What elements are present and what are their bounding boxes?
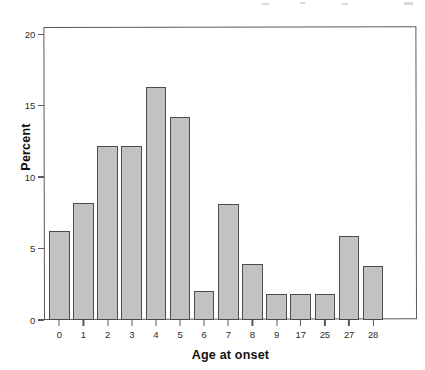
x-axis-tick-mark	[276, 320, 277, 326]
x-axis-tick-label: 9	[274, 329, 279, 340]
x-axis-tick-label: 5	[177, 329, 182, 340]
x-axis-tick: 0	[57, 320, 62, 340]
x-axis-tick-label: 25	[320, 329, 330, 340]
x-axis-tick-mark	[131, 320, 132, 326]
x-axis-ticks: 012345678917252728	[44, 320, 417, 350]
scan-artifact	[404, 2, 413, 5]
x-axis-tick-mark	[300, 320, 301, 326]
bar	[73, 203, 94, 320]
y-axis-tick-label: 0	[30, 315, 35, 326]
bar	[194, 291, 215, 320]
x-axis-tick-mark	[348, 320, 349, 326]
x-axis-tick-label: 28	[368, 329, 378, 340]
x-axis-tick-mark	[324, 320, 325, 326]
x-axis-title: Age at onset	[44, 348, 417, 362]
x-axis-tick: 3	[129, 320, 134, 340]
x-axis-tick-mark	[179, 320, 180, 326]
bar	[315, 294, 336, 320]
x-axis-tick-label: 0	[57, 329, 62, 340]
x-axis-tick-mark	[83, 320, 84, 326]
x-axis-tick-label: 17	[296, 329, 306, 340]
y-axis-tick-label: 15	[25, 100, 35, 111]
x-axis-tick-mark	[107, 320, 108, 326]
scan-artifact	[300, 2, 305, 4]
x-axis-tick-mark	[373, 320, 374, 326]
y-axis-tick-label: 10	[25, 172, 35, 183]
x-axis-tick-mark	[252, 320, 253, 326]
x-axis-tick-mark	[59, 320, 60, 326]
y-axis-title: Percent	[19, 123, 33, 170]
y-axis-tick-mark	[38, 34, 44, 35]
y-axis-ticks: 05101520	[0, 0, 44, 370]
x-axis-tick: 9	[274, 320, 279, 340]
x-axis-tick: 27	[344, 320, 354, 340]
x-axis-tick: 28	[368, 320, 378, 340]
bar	[363, 266, 384, 320]
y-axis-tick-mark	[38, 248, 44, 249]
x-axis-tick-mark	[228, 320, 229, 326]
x-axis-tick-label: 7	[226, 329, 231, 340]
scan-artifact	[342, 3, 348, 5]
x-axis-tick-label: 6	[202, 329, 207, 340]
bar-chart: 05101520 Percent 012345678917252728 Age …	[0, 0, 425, 370]
y-axis-tick-mark	[38, 105, 44, 106]
y-axis-tick-mark	[38, 176, 44, 177]
bar	[242, 264, 263, 320]
bar	[97, 146, 118, 320]
bar	[266, 294, 287, 320]
x-axis-tick-label: 3	[129, 329, 134, 340]
y-axis-tick-label: 20	[25, 29, 35, 40]
bar	[290, 294, 311, 320]
x-axis-tick-label: 2	[105, 329, 110, 340]
x-axis-tick-mark	[204, 320, 205, 326]
x-axis-tick: 6	[202, 320, 207, 340]
x-axis-tick: 25	[320, 320, 330, 340]
y-axis-tick-label: 5	[30, 243, 35, 254]
x-axis-tick: 5	[177, 320, 182, 340]
x-axis-tick: 1	[81, 320, 86, 340]
bar	[49, 231, 70, 320]
scan-artifact	[262, 3, 269, 5]
x-axis-tick-mark	[155, 320, 156, 326]
x-axis-tick: 17	[296, 320, 306, 340]
x-axis-tick-label: 27	[344, 329, 354, 340]
x-axis-tick-label: 8	[250, 329, 255, 340]
x-axis-tick: 8	[250, 320, 255, 340]
x-axis-tick-label: 4	[153, 329, 158, 340]
x-axis-tick: 7	[226, 320, 231, 340]
bar	[339, 236, 360, 320]
bars-layer	[44, 27, 417, 320]
x-axis-tick: 4	[153, 320, 158, 340]
bar	[170, 117, 191, 320]
x-axis-tick-label: 1	[81, 329, 86, 340]
x-axis-tick: 2	[105, 320, 110, 340]
bar	[146, 87, 167, 320]
bar	[121, 146, 142, 320]
bar	[218, 204, 239, 320]
